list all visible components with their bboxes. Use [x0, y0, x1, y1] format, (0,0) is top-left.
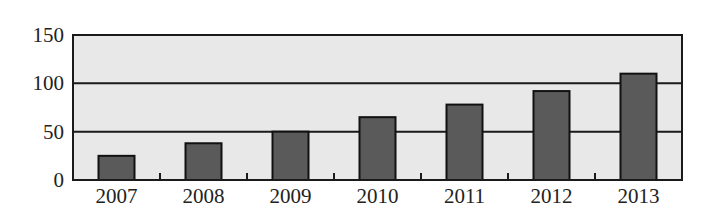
x-tick-label: 2011	[430, 186, 500, 207]
plot-area	[0, 0, 706, 215]
x-tick-label: 2008	[169, 186, 239, 207]
y-tick-label: 0	[24, 170, 64, 191]
bar-2007	[99, 156, 135, 180]
bar-2013	[621, 74, 657, 180]
y-tick-label: 50	[24, 122, 64, 143]
bar-2009	[273, 132, 309, 180]
x-tick-label: 2009	[256, 186, 326, 207]
x-tick-label: 2013	[604, 186, 674, 207]
bar-chart: 050100150 2007200820092010201120122013	[0, 0, 706, 215]
bar-2011	[447, 105, 483, 180]
x-tick-label: 2007	[82, 186, 152, 207]
bar-2008	[186, 143, 222, 180]
x-tick-label: 2010	[343, 186, 413, 207]
y-tick-label: 150	[24, 25, 64, 46]
y-tick-label: 100	[24, 73, 64, 94]
bar-2012	[534, 91, 570, 180]
bar-2010	[360, 117, 396, 180]
x-tick-label: 2012	[517, 186, 587, 207]
